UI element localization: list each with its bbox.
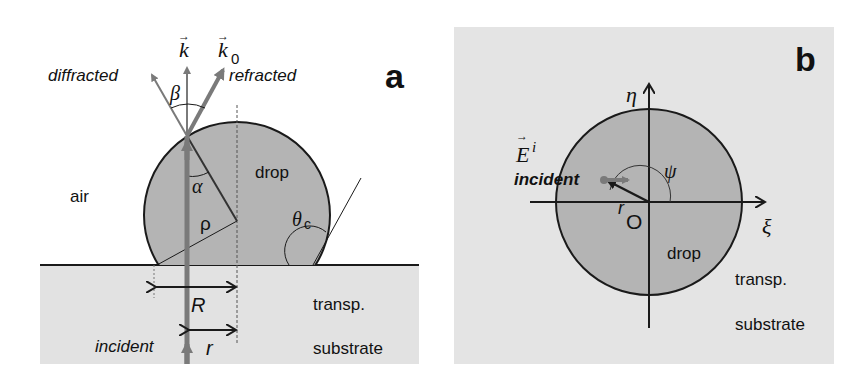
drop-label-b: drop	[667, 244, 701, 263]
k-vector-overarrow: →	[178, 29, 190, 43]
alpha-label: α	[192, 175, 203, 197]
drop-diffraction-figure: a air drop transp. substrate incident di…	[0, 0, 864, 379]
incident-label-b: incident	[514, 170, 581, 189]
panel-b-label: b	[795, 40, 816, 78]
psi-label: ψ	[664, 160, 677, 183]
refracted-label: refracted	[229, 66, 297, 85]
panel-b: b η ξ E i → incident ψ r O drop transp. …	[454, 27, 834, 364]
xi-label: ξ	[762, 214, 772, 239]
e-field-superscript: i	[532, 139, 536, 155]
drop-label-a: drop	[255, 163, 289, 182]
air-label: air	[70, 187, 89, 206]
panel-a: a air drop transp. substrate incident di…	[40, 29, 419, 364]
r-label-b: r	[618, 198, 625, 218]
incident-label-a: incident	[95, 337, 155, 356]
substrate-label-b-2: substrate	[735, 315, 805, 334]
beta-label: β	[169, 82, 180, 105]
diffracted-label: diffracted	[48, 66, 118, 85]
dim-R-label: R	[191, 294, 205, 316]
rho-label: ρ	[200, 213, 211, 234]
substrate-label-a-2: substrate	[313, 339, 383, 358]
k0-subscript: 0	[231, 50, 239, 67]
substrate-label-b-1: transp.	[735, 270, 787, 289]
panel-a-label: a	[385, 57, 405, 95]
k0-vector-overarrow: →	[217, 29, 229, 43]
theta-c-subscript: c	[304, 216, 311, 232]
e-field-label: E	[515, 142, 530, 167]
e-field-overarrow: →	[516, 129, 528, 143]
substrate-label-a-1: transp.	[313, 295, 365, 314]
theta-c-label: θ	[292, 208, 302, 230]
origin-label: O	[626, 210, 642, 233]
eta-label: η	[626, 82, 637, 107]
